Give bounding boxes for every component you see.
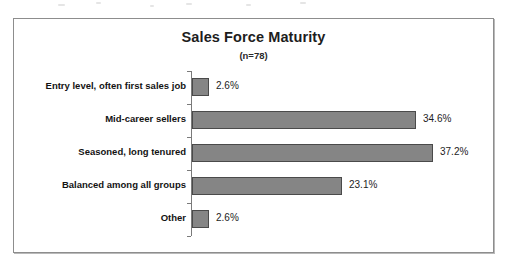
scan-artifacts — [0, 0, 508, 16]
axis-tick — [187, 170, 191, 171]
chart-title: Sales Force Maturity — [14, 29, 493, 45]
category-label-wrap: Entry level, often first sales job — [14, 71, 186, 104]
axis-tick — [187, 104, 191, 105]
category-label: Mid-career sellers — [16, 113, 186, 124]
scan-speck — [186, 3, 192, 5]
bar — [192, 78, 209, 96]
axis-tick — [187, 137, 191, 138]
bar-value-label: 2.6% — [216, 212, 239, 223]
scan-speck — [96, 2, 101, 4]
category-label: Entry level, often first sales job — [16, 80, 186, 91]
scan-speck — [300, 2, 306, 4]
scan-speck — [58, 4, 65, 6]
category-label: Balanced among all groups — [16, 179, 186, 190]
category-label-wrap: Other — [14, 203, 186, 236]
bar — [192, 111, 416, 129]
chart-subtitle: (n=78) — [14, 50, 493, 61]
chart-frame: Sales Force Maturity (n=78) Entry level,… — [13, 18, 494, 253]
category-label-wrap: Balanced among all groups — [14, 170, 186, 203]
bar — [192, 144, 433, 162]
bar — [192, 177, 342, 195]
bar — [192, 210, 209, 228]
axis-tick — [187, 71, 191, 72]
plot-area: Entry level, often first sales job2.6%Mi… — [191, 71, 491, 236]
category-label-wrap: Seasoned, long tenured — [14, 137, 186, 170]
bar-value-label: 37.2% — [440, 146, 468, 157]
bar-value-label: 23.1% — [349, 179, 377, 190]
axis-tick — [187, 236, 191, 237]
axis-tick — [187, 203, 191, 204]
category-label-wrap: Mid-career sellers — [14, 104, 186, 137]
category-label: Seasoned, long tenured — [16, 146, 186, 157]
bar-value-label: 2.6% — [216, 80, 239, 91]
scan-speck — [246, 4, 251, 6]
bar-value-label: 34.6% — [423, 113, 451, 124]
category-label: Other — [16, 212, 186, 223]
scan-speck — [150, 5, 154, 7]
